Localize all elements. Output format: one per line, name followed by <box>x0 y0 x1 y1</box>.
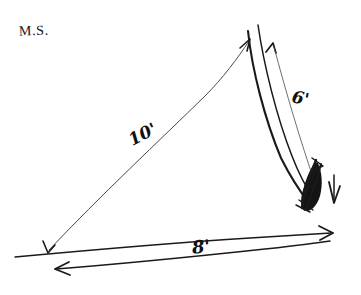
triangle-drawing <box>0 0 361 295</box>
author-initials-label: M.S. <box>19 23 49 40</box>
hypotenuse-line-group <box>43 39 250 253</box>
hypotenuse-line <box>49 41 249 250</box>
sketch-canvas: M.S. 10' 6' 8' <box>0 0 361 295</box>
vertical-side-group <box>248 25 340 203</box>
base-dimension-group <box>15 226 333 275</box>
base-length-label: 8' <box>191 235 211 257</box>
hypotenuse-left-arrowhead <box>43 241 55 253</box>
